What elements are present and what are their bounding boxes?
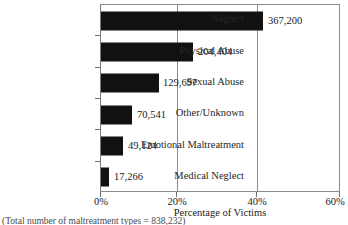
bar-value-medical-neglect: 17,266 [114, 172, 143, 183]
category-label-other-unknown: Other/Unknown [176, 98, 244, 129]
chart-footnote: (Total number of maltreatment types = 83… [2, 217, 185, 225]
bar-emotional-maltreatment [101, 136, 123, 155]
category-label-medical-neglect: Medical Neglect [174, 161, 244, 192]
bar-chart-figure: 367,200 204,404 129,697 70,541 49,124 17… [0, 0, 348, 225]
category-label-neglect: Neglect [211, 4, 244, 35]
y-axis-tick [95, 35, 100, 36]
y-axis-tick [95, 67, 100, 68]
bar-sexual-abuse [101, 74, 159, 93]
x-axis-label-60: 60% [325, 197, 344, 208]
bar-medical-neglect [101, 168, 109, 187]
y-axis-tick [95, 129, 100, 130]
x-axis-label-0: 0% [94, 197, 108, 208]
category-label-sexual-abuse: Sexual Abuse [187, 67, 244, 98]
bar-other-unknown [101, 105, 132, 124]
category-label-physical-abuse: Physical Abuse [180, 35, 244, 66]
y-axis-tick [95, 161, 100, 162]
bar-value-other-unknown: 70,541 [137, 109, 166, 120]
category-label-emotional-maltreatment: Emotional Maltreatment [141, 129, 244, 160]
x-axis-label-40: 40% [247, 197, 266, 208]
bar-value-neglect: 367,200 [268, 15, 302, 26]
y-axis-tick [95, 98, 100, 99]
x-axis-label-20: 20% [167, 197, 186, 208]
